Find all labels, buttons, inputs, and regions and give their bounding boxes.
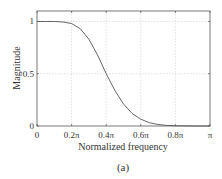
y-tick-label: 0 bbox=[30, 121, 35, 131]
x-tick-label: 0.6π bbox=[133, 130, 149, 140]
x-tick-label: 0.2π bbox=[64, 130, 80, 140]
chart: 00.2π0.4π0.6π0.8ππ 00.51 Normalized freq… bbox=[0, 0, 222, 179]
y-tick-label: 1 bbox=[30, 16, 35, 26]
x-tick-label: 0.4π bbox=[98, 130, 114, 140]
x-tick-label: π bbox=[208, 130, 213, 140]
plot-area-frame bbox=[37, 11, 210, 126]
x-axis-label: Normalized frequency bbox=[78, 141, 168, 152]
x-tick-label: 0 bbox=[35, 130, 40, 140]
x-tick-label: 0.8π bbox=[168, 130, 184, 140]
figure-caption: (a) bbox=[117, 161, 130, 174]
x-tick-labels: 00.2π0.4π0.6π0.8ππ bbox=[35, 130, 213, 140]
y-axis-label: Magnitude bbox=[11, 46, 22, 90]
y-tick-label: 0.5 bbox=[23, 69, 35, 79]
axis-ticks bbox=[37, 11, 210, 126]
grid-lines bbox=[37, 11, 210, 126]
y-tick-labels: 00.51 bbox=[23, 16, 35, 131]
